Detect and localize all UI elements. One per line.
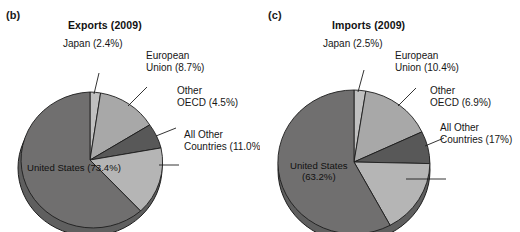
- inside-label-us-line-1: United States: [290, 160, 348, 171]
- callout-all-other-countries-imports: All Other Countries (17%): [440, 122, 512, 146]
- panel-imports: (c) Imports (2009) Jap: [260, 0, 520, 232]
- figure-two-pie-charts: (b) Exports (2009): [0, 0, 520, 232]
- inside-label-us-line-1: United States (73.4%): [27, 162, 121, 173]
- leader-line-japan: [358, 70, 364, 92]
- callout-eu-line-2: Union (10.4%): [395, 62, 459, 74]
- callout-other-line-2: Countries (17%): [440, 134, 512, 146]
- inside-label-us-line-2: (63.2%): [290, 171, 348, 182]
- callout-japan-exports: Japan (2.4%): [63, 38, 122, 50]
- leader-line-other-oecd: [156, 128, 176, 136]
- callout-japan-imports: Japan (2.5%): [323, 38, 382, 50]
- chart-title-imports: Imports (2009): [332, 19, 405, 31]
- callout-oecd-line-1: Other: [177, 85, 238, 97]
- leader-line-japan: [94, 73, 99, 94]
- inside-label-united-states-exports: United States (73.4%): [27, 162, 121, 173]
- pie-chart-imports: [278, 48, 446, 226]
- panel-letter-b: (b): [6, 9, 20, 21]
- chart-title-exports: Exports (2009): [68, 19, 142, 31]
- callout-all-other-countries-exports: All Other Countries (11.0%): [184, 129, 260, 153]
- callout-oecd-line-1: Other: [430, 85, 491, 97]
- pie-svg-exports: [16, 50, 176, 222]
- pie-chart-exports: [16, 50, 176, 222]
- callout-other-oecd-imports: Other OECD (6.9%): [430, 85, 491, 109]
- inside-label-united-states-imports: United States (63.2%): [290, 160, 348, 183]
- callout-other-line-1: All Other: [440, 122, 512, 134]
- callout-oecd-line-2: OECD (4.5%): [177, 97, 238, 109]
- callout-european-union-exports: European Union (8.7%): [146, 50, 204, 74]
- callout-eu-line-1: European: [146, 50, 204, 62]
- callout-eu-line-1: European: [395, 50, 459, 62]
- callout-eu-line-2: Union (8.7%): [146, 62, 204, 74]
- leader-line-european-union: [398, 88, 416, 106]
- pie-svg-imports: [278, 48, 446, 226]
- panel-exports: (b) Exports (2009): [0, 0, 260, 232]
- callout-japan-line-1: Japan (2.5%): [323, 38, 382, 50]
- callout-japan-line-1: Japan (2.4%): [63, 38, 122, 50]
- callout-european-union-imports: European Union (10.4%): [395, 50, 459, 74]
- callout-oecd-line-2: OECD (6.9%): [430, 97, 491, 109]
- callout-other-line-2: Countries (11.0%): [184, 141, 260, 153]
- callout-other-oecd-exports: Other OECD (4.5%): [177, 85, 238, 109]
- panel-letter-c: (c): [268, 9, 282, 21]
- callout-other-line-1: All Other: [184, 129, 260, 141]
- leader-line-european-union: [128, 87, 147, 106]
